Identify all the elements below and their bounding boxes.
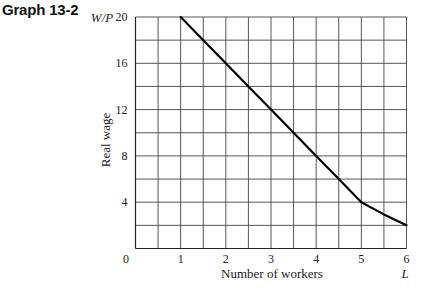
- x-tick-label: 1: [178, 252, 184, 266]
- x-tick-label: 6: [404, 252, 410, 266]
- grid-lines: [136, 17, 407, 249]
- origin-label: 0: [123, 252, 129, 266]
- line-chart: 481216201234560Number of workersLReal wa…: [0, 0, 422, 293]
- y-tick-label: 16: [116, 56, 128, 70]
- y-axis-symbol: W/P: [91, 10, 113, 25]
- x-tick-label: 3: [268, 252, 274, 266]
- y-tick-label: 20: [116, 10, 128, 24]
- y-axis-label: Real wage: [98, 113, 113, 168]
- x-axis-symbol: L: [400, 266, 408, 281]
- x-tick-label: 2: [223, 252, 229, 266]
- x-tick-label: 5: [358, 252, 364, 266]
- x-tick-label: 4: [313, 252, 319, 266]
- y-tick-label: 4: [122, 195, 128, 209]
- x-axis-label: Number of workers: [221, 266, 323, 281]
- y-tick-label: 12: [116, 103, 128, 117]
- y-tick-label: 8: [122, 149, 128, 163]
